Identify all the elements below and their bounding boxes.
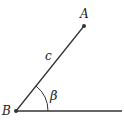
label-a: A — [79, 7, 89, 21]
point-a — [82, 24, 86, 28]
label-b: B — [1, 104, 11, 118]
label-c: c — [45, 49, 52, 63]
angle-arc — [36, 86, 48, 111]
triangle-angle-diagram: A B c β — [0, 0, 124, 123]
point-b — [14, 109, 18, 113]
label-beta: β — [49, 88, 58, 103]
